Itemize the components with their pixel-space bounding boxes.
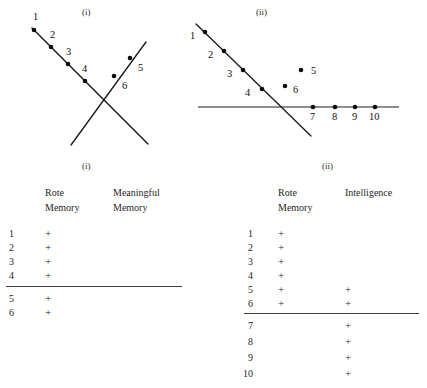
table-i-row-1-rote: + <box>45 228 51 239</box>
table-ii-row-9-number: 9 <box>239 353 253 363</box>
diagram-ii-label-6: 6 <box>293 85 298 96</box>
table-i-col1-header-line2: Memory <box>45 203 79 213</box>
table-ii-caption: (ii) <box>322 162 333 171</box>
diagram-ii-point-1 <box>203 30 208 35</box>
table-i-col2-header-line1: Meaningful <box>113 188 160 198</box>
table-ii-row-8-intelligence: + <box>345 336 351 347</box>
table-i-row-4-rote: + <box>45 270 51 281</box>
diagram-ii-label-2: 2 <box>208 50 213 61</box>
diagram-ii-caption: (ii) <box>256 8 267 17</box>
table-ii-divider <box>244 313 419 314</box>
table-ii-row-8-number: 8 <box>239 337 253 347</box>
table-ii-row-5-number: 5 <box>239 285 253 295</box>
table-i-row-6-rote: + <box>45 307 51 318</box>
diagram-ii-label-5: 5 <box>311 66 316 77</box>
diagram-ii-label-9: 9 <box>352 112 357 123</box>
diagram-ii-point-5 <box>299 68 304 73</box>
table-i-row-2-number: 2 <box>0 243 14 253</box>
diagram-ii-point-8 <box>333 105 338 110</box>
diagram-ii-point-4 <box>260 87 265 92</box>
diagram-ii-point-6 <box>283 84 288 89</box>
diagram-ii-label-8: 8 <box>332 112 337 123</box>
table-ii-row-9-intelligence: + <box>345 352 351 363</box>
table-ii-row-6-intelligence: + <box>345 298 351 309</box>
diagram-ii-label-7: 7 <box>310 112 315 123</box>
table-ii-row-7-number: 7 <box>239 321 253 331</box>
table-ii-row-3-number: 3 <box>239 257 253 267</box>
diagram-ii-point-10 <box>373 105 378 110</box>
table-ii-row-2-number: 2 <box>239 243 253 253</box>
table-i-row-6-number: 6 <box>0 308 14 318</box>
diagram-ii-point-3 <box>241 68 246 73</box>
table-ii-row-5-intelligence: + <box>345 284 351 295</box>
table-ii-row-5-rote: + <box>278 284 284 295</box>
diagram-ii-label-1: 1 <box>190 31 195 42</box>
table-i-caption: (i) <box>82 162 91 171</box>
diagram-ii-point-9 <box>353 105 358 110</box>
table-i-row-2-rote: + <box>45 242 51 253</box>
diagram-ii-label-3: 3 <box>227 69 232 80</box>
diagram-ii-label-4: 4 <box>245 88 250 99</box>
table-ii-row-4-rote: + <box>278 270 284 281</box>
table-ii-row-1-number: 1 <box>239 229 253 239</box>
table-ii-row-7-intelligence: + <box>345 320 351 331</box>
table-ii-row-10-intelligence: + <box>345 368 351 379</box>
diagram-ii <box>0 0 427 160</box>
table-i-col1-header-line1: Rote <box>45 188 64 198</box>
table-ii-row-6-rote: + <box>278 298 284 309</box>
table-i-divider <box>6 286 182 287</box>
table-ii-col2-header-line1: Intelligence <box>345 188 392 198</box>
diagram-ii-point-7 <box>311 105 316 110</box>
diagram-ii-label-10: 10 <box>369 112 380 123</box>
table-i-col2-header-line2: Memory <box>113 203 147 213</box>
table-ii-row-6-number: 6 <box>239 299 253 309</box>
table-ii-row-1-rote: + <box>278 228 284 239</box>
diagram-ii-descending-line <box>196 24 311 136</box>
table-ii-col1-header-line2: Memory <box>278 203 312 213</box>
table-i-row-5-number: 5 <box>0 294 14 304</box>
table-ii-row-10-number: 10 <box>236 369 253 379</box>
table-i-row-3-rote: + <box>45 256 51 267</box>
table-ii-row-4-number: 4 <box>239 271 253 281</box>
table-i-row-4-number: 4 <box>0 271 14 281</box>
table-i-row-1-number: 1 <box>0 229 14 239</box>
figure-page: (i) 1 2 3 4 5 6 (ii) 1 2 3 4 5 6 <box>0 0 427 388</box>
table-ii-row-3-rote: + <box>278 256 284 267</box>
table-i-row-3-number: 3 <box>0 257 14 267</box>
diagram-ii-point-2 <box>222 49 227 54</box>
table-i-row-5-rote: + <box>45 293 51 304</box>
table-ii-col1-header-line1: Rote <box>278 188 297 198</box>
table-ii-row-2-rote: + <box>278 242 284 253</box>
